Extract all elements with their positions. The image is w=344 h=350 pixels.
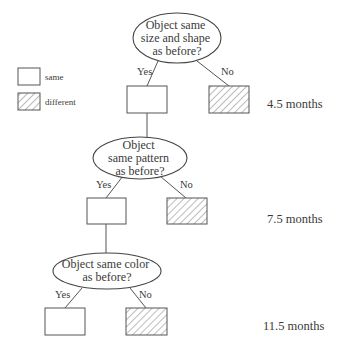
age-label: 4.5 months: [267, 97, 323, 111]
decision-node-pattern: Object same pattern as before? Yes No 7.…: [87, 137, 323, 226]
legend-different-label: different: [45, 97, 76, 107]
legend-same-swatch: [18, 68, 40, 85]
no-label: No: [221, 66, 234, 77]
different-outcome-box: [209, 86, 249, 113]
same-outcome-box: [127, 86, 167, 113]
same-outcome-box: [45, 308, 85, 335]
no-label: No: [139, 289, 152, 300]
different-outcome-box: [167, 198, 207, 224]
age-label: 11.5 months: [263, 319, 324, 333]
decision-node-size-shape: Object same size and shape as before? Ye…: [127, 13, 323, 113]
same-outcome-box: [87, 198, 126, 224]
legend: same different: [18, 68, 76, 110]
decision-tree-diagram: same different Object same size and shap…: [0, 0, 344, 350]
age-label: 7.5 months: [267, 212, 323, 226]
decision-node-color: Object same color as before? Yes No 11.5…: [45, 253, 324, 335]
legend-same-label: same: [45, 72, 64, 82]
different-outcome-box: [126, 308, 167, 335]
no-label: No: [180, 179, 193, 190]
yes-label: Yes: [55, 289, 70, 300]
legend-different-swatch: [18, 93, 40, 110]
yes-label: Yes: [137, 66, 152, 77]
yes-label: Yes: [96, 179, 111, 190]
